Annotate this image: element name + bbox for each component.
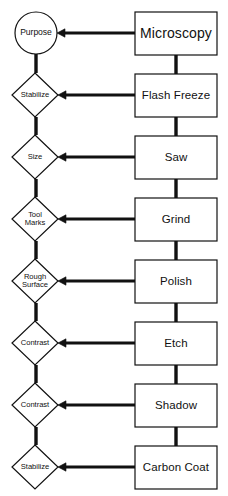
arrowhead-microscopy-to-purpose <box>57 29 65 37</box>
arrowhead-shadow-to-contrast-2 <box>58 401 66 409</box>
node-grind[interactable] <box>135 198 217 241</box>
node-layer <box>12 12 217 489</box>
node-size[interactable] <box>12 135 58 179</box>
node-flash-freeze[interactable] <box>135 74 217 117</box>
node-contrast-2[interactable] <box>12 383 58 427</box>
node-stabilize-2[interactable] <box>12 445 58 489</box>
arrowhead-polish-to-rough-surface <box>58 277 66 285</box>
node-microscopy[interactable] <box>135 12 217 55</box>
node-rough-surface[interactable] <box>12 259 58 303</box>
node-stabilize-1[interactable] <box>12 73 58 117</box>
arrowhead-saw-to-size <box>58 153 66 161</box>
node-polish[interactable] <box>135 260 217 303</box>
node-purpose[interactable] <box>15 12 57 54</box>
arrowhead-etch-to-contrast-1 <box>58 339 66 347</box>
node-carbon-coat[interactable] <box>135 446 217 489</box>
node-saw[interactable] <box>135 136 217 179</box>
arrowhead-flash-freeze-to-stabilize-1 <box>58 91 66 99</box>
arrowhead-grind-to-tool-marks <box>58 215 66 223</box>
node-shadow[interactable] <box>135 384 217 427</box>
node-etch[interactable] <box>135 322 217 365</box>
process-flow-diagram: PurposeStabilizeSizeTool MarksRough Surf… <box>0 0 228 496</box>
diagram-canvas <box>0 0 228 496</box>
arrowhead-carbon-coat-to-stabilize-2 <box>58 463 66 471</box>
node-contrast-1[interactable] <box>12 321 58 365</box>
node-tool-marks[interactable] <box>12 197 58 241</box>
